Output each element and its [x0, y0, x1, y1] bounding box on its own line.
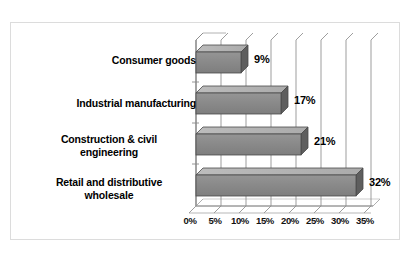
category-label-retail-distributive-wholesale: Retail and distributive wholesale — [22, 176, 196, 201]
x-tick-label-10: 10% — [227, 215, 253, 226]
bar-chart-figure: Consumer goods Industrial manufacturing … — [0, 0, 410, 259]
category-label-line: wholesale — [22, 189, 196, 202]
x-tick-label-25: 25% — [302, 215, 328, 226]
data-label-retail-distributive-wholesale: 32% — [369, 176, 390, 188]
data-label-industrial-manufacturing: 17% — [294, 94, 315, 106]
category-label-line: Industrial manufacturing — [77, 97, 197, 109]
bar-retail-distributive-wholesale — [196, 168, 363, 196]
category-label-line: Consumer goods — [112, 54, 196, 66]
category-label-construction-civil-engineering: Construction & civil engineering — [22, 133, 196, 158]
x-tick-label-20: 20% — [277, 215, 303, 226]
x-tick-label-15: 15% — [252, 215, 278, 226]
category-label-line: engineering — [22, 146, 196, 159]
x-tick-label-30: 30% — [327, 215, 353, 226]
category-label-industrial-manufacturing: Industrial manufacturing — [22, 97, 196, 110]
x-tick-label-5: 5% — [203, 215, 227, 226]
bar-construction-civil-engineering — [196, 127, 308, 155]
x-tick-label-35: 35% — [352, 215, 378, 226]
category-label-consumer-goods: Consumer goods — [22, 54, 196, 67]
category-label-line: Retail and distributive — [22, 176, 196, 189]
category-axis-labels: Consumer goods Industrial manufacturing … — [22, 38, 196, 214]
bar-industrial-manufacturing — [196, 86, 288, 114]
axis-tick-risers — [189, 206, 371, 213]
bar-consumer-goods — [196, 45, 248, 73]
category-label-line: Construction & civil — [22, 133, 196, 146]
x-tick-label-0: 0% — [178, 215, 202, 226]
data-label-construction-civil-engineering: 21% — [314, 135, 335, 147]
data-label-consumer-goods: 9% — [254, 53, 270, 65]
